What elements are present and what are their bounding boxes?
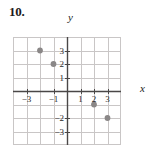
data-point-marker[interactable] — [105, 115, 111, 121]
x-tick-label: 1 — [76, 95, 86, 104]
data-point[interactable]: (-2, 3) — [37, 48, 43, 54]
data-point[interactable]: (3, -2) — [105, 115, 111, 121]
plot-canvas: (-2, 3)(-1, 2)(2, -1)(3, -2) — [13, 37, 121, 145]
y-tick-label: 3 — [53, 47, 64, 56]
y-tick-label: −3 — [53, 128, 64, 137]
y-tick-label: 1 — [53, 74, 64, 83]
x-axis-label: x — [140, 83, 145, 94]
x-tick-label: −3 — [22, 95, 32, 104]
y-tick-label: 2 — [53, 60, 64, 69]
y-axis-label: y — [68, 12, 73, 23]
coordinate-plane-figure: 10. (-2, 3)(-1, 2)(2, -1)(3, -2) y x −3−… — [0, 0, 155, 158]
x-tick-label: 3 — [103, 95, 113, 104]
problem-number-label: 10. — [9, 5, 25, 19]
y-tick-label: −2 — [53, 114, 64, 123]
x-tick-label: 2 — [89, 95, 99, 104]
x-tick-label: −1 — [49, 95, 59, 104]
data-point-marker[interactable] — [37, 48, 43, 54]
scatter-plot: (-2, 3)(-1, 2)(2, -1)(3, -2) — [13, 37, 121, 145]
